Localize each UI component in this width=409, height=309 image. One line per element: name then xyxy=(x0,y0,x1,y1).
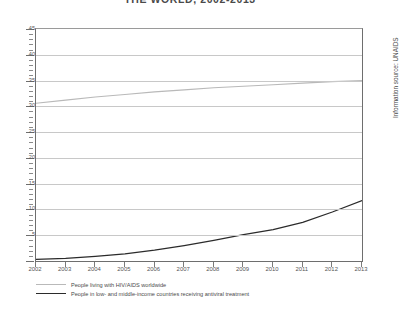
y-axis-minor-tick xyxy=(29,225,33,226)
legend-item-label: People in low- and middle-income countri… xyxy=(71,291,249,297)
y-axis-minor-tick xyxy=(29,220,33,221)
y-axis-minor-tick xyxy=(29,142,33,143)
y-axis-tick-label: 45 xyxy=(19,26,35,32)
y-axis-minor-tick xyxy=(29,199,33,200)
y-axis-minor-tick xyxy=(29,246,33,247)
y-axis-minor-tick xyxy=(29,117,33,118)
gridline xyxy=(36,132,362,133)
y-axis-minor-tick xyxy=(29,96,33,97)
y-axis-minor-tick xyxy=(29,34,33,35)
y-axis-minor-tick xyxy=(29,44,33,45)
y-axis-tick-label: 10 xyxy=(19,206,35,212)
legend-swatch-line-icon xyxy=(36,284,66,285)
legend-item-label: People living with HIV/AIDS worldwide xyxy=(71,282,166,288)
y-axis-minor-tick xyxy=(29,91,33,92)
y-axis-tick-label: 40 xyxy=(19,52,35,58)
legend-item: People living with HIV/AIDS worldwide xyxy=(36,280,249,289)
y-axis-minor-tick xyxy=(29,86,33,87)
y-axis-tick-label: 20 xyxy=(19,155,35,161)
gridline xyxy=(36,106,362,107)
y-axis-tick-label: 30 xyxy=(19,103,35,109)
y-axis-minor-tick xyxy=(29,189,33,190)
y-axis-minor-tick xyxy=(29,168,33,169)
y-axis-ticks: 51015202530354045 xyxy=(0,28,35,262)
y-axis-minor-tick xyxy=(29,256,33,257)
plot-area xyxy=(35,28,363,262)
gridline xyxy=(36,55,362,56)
gridline xyxy=(36,158,362,159)
y-axis-minor-tick xyxy=(29,39,33,40)
y-axis-minor-tick xyxy=(29,240,33,241)
legend-item: People in low- and middle-income countri… xyxy=(36,289,249,298)
chart-title: THE WORLD, 2002-2013 xyxy=(0,0,380,5)
series-line xyxy=(36,81,362,104)
y-axis-minor-tick xyxy=(29,148,33,149)
y-axis-tick-label: 25 xyxy=(19,129,35,135)
y-axis-minor-tick xyxy=(29,122,33,123)
y-axis-minor-tick xyxy=(29,163,33,164)
y-axis-tick-label: 15 xyxy=(19,181,35,187)
y-axis-minor-tick xyxy=(29,60,33,61)
gridline xyxy=(36,184,362,185)
y-axis-minor-tick xyxy=(29,65,33,66)
x-axis-tick-labels: 2002200320042005200620072008200920102011… xyxy=(0,266,409,278)
series-layer xyxy=(36,29,362,261)
chart-figure: THE WORLD, 2002-2013 Number of people (i… xyxy=(0,0,409,309)
gridline xyxy=(36,81,362,82)
y-axis-minor-tick xyxy=(29,137,33,138)
y-axis-tick-label: 5 xyxy=(19,232,35,238)
y-axis-minor-tick xyxy=(29,70,33,71)
y-axis-minor-tick xyxy=(29,251,33,252)
chart-legend: People living with HIV/AIDS worldwide Pe… xyxy=(36,280,249,298)
x-axis-tick-label: 2013 xyxy=(344,266,378,272)
gridline xyxy=(36,235,362,236)
y-axis-minor-tick xyxy=(29,111,33,112)
y-axis-minor-tick xyxy=(29,173,33,174)
legend-swatch-line-icon xyxy=(36,293,66,294)
y-axis-minor-tick xyxy=(29,194,33,195)
y-axis-minor-tick xyxy=(29,215,33,216)
gridline xyxy=(36,209,362,210)
source-note: Information source: UNAIDS xyxy=(392,37,399,118)
y-axis-tick-label: 35 xyxy=(19,78,35,84)
